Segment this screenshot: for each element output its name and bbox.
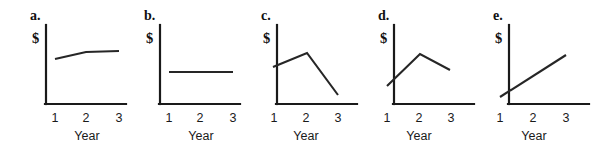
panel-letter: c. [261, 8, 271, 23]
x-tick-label: 3 [230, 111, 237, 125]
chart-panel-c: c.$123Year [245, 0, 363, 149]
x-tick-label: 1 [271, 111, 278, 125]
chart-panel-b: b.$123Year [128, 0, 246, 149]
x-tick-label: 3 [563, 111, 570, 125]
x-axis-title: Year [406, 129, 431, 143]
chart-panel-e: e.$123Year [477, 0, 595, 149]
panel-letter: b. [144, 8, 155, 23]
y-axis-label: $ [263, 30, 270, 46]
chart-panel-d: d.$123Year [362, 0, 480, 149]
x-axis-title: Year [521, 129, 546, 143]
x-tick-label: 3 [116, 111, 123, 125]
x-tick-label: 2 [83, 111, 90, 125]
x-tick-label: 2 [197, 111, 204, 125]
x-tick-label: 1 [52, 111, 59, 125]
chart-panel-a: a.$123Year [14, 0, 132, 149]
panel-letter: a. [30, 8, 41, 23]
x-tick-label: 2 [530, 111, 537, 125]
x-tick-label: 2 [303, 111, 310, 125]
panel-letter: e. [493, 8, 503, 23]
x-tick-label: 1 [497, 111, 504, 125]
data-line [387, 54, 450, 86]
y-axis-label: $ [32, 30, 39, 46]
data-line [273, 53, 338, 95]
x-tick-label: 3 [335, 111, 342, 125]
y-axis-label: $ [380, 30, 387, 46]
x-axis-title: Year [293, 129, 318, 143]
x-tick-label: 2 [416, 111, 423, 125]
x-tick-label: 3 [448, 111, 455, 125]
y-axis-label: $ [146, 30, 153, 46]
x-axis-title: Year [74, 129, 99, 143]
x-axis-title: Year [188, 129, 213, 143]
y-axis-label: $ [495, 30, 502, 46]
x-tick-label: 1 [166, 111, 173, 125]
data-line [55, 51, 119, 59]
panel-letter: d. [378, 8, 389, 23]
x-tick-label: 1 [384, 111, 391, 125]
